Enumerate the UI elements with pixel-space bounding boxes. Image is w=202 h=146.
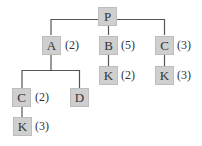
count-c-right: (3) — [177, 36, 191, 55]
node-b: B — [99, 36, 118, 55]
count-k-under-b: (2) — [121, 66, 135, 85]
node-c-left: C — [12, 88, 31, 107]
edge-a-c-d — [22, 71, 80, 89]
node-k-under-c: K — [155, 66, 174, 85]
node-k-bottom: K — [13, 117, 32, 136]
tree-diagram: P A (2) B (5) C (3) K (2) K (3) C (2) D … — [0, 0, 202, 146]
node-c-right: C — [155, 36, 174, 55]
count-a: (2) — [65, 36, 79, 55]
node-k-under-b: K — [99, 66, 118, 85]
node-a: A — [42, 36, 61, 55]
count-c-left: (2) — [35, 88, 49, 107]
count-k-under-c: (3) — [177, 66, 191, 85]
count-k-bottom: (3) — [35, 117, 49, 136]
node-d: D — [70, 88, 89, 107]
count-b: (5) — [121, 36, 135, 55]
node-p: P — [98, 7, 117, 26]
